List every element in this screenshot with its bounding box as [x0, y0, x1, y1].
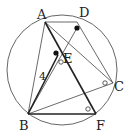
angle-mark-F — [86, 107, 90, 111]
point-D-dot — [74, 25, 79, 30]
label-A: A — [36, 7, 47, 22]
label-D: D — [79, 5, 89, 20]
label-F: F — [96, 118, 105, 133]
label-E: E — [63, 51, 73, 66]
label-B: B — [19, 118, 29, 133]
segment-AF — [45, 22, 96, 114]
segment-length-label: 4 — [39, 70, 46, 83]
diagram-canvas: A D E C B F 4 — [0, 0, 128, 134]
circumcircle — [7, 15, 117, 125]
segment-DC — [77, 22, 113, 83]
angle-mark-C — [103, 81, 107, 85]
geometry-diagram: A D E C B F 4 — [0, 0, 128, 134]
segment-AB — [28, 22, 45, 114]
label-C: C — [114, 79, 124, 94]
segment-BE — [28, 55, 58, 114]
point-E-dot — [53, 50, 58, 55]
